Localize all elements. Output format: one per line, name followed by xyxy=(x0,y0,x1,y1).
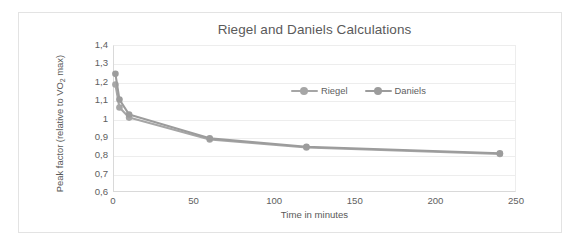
y-axis-title: Peak factor (relative to VO2 max) xyxy=(54,44,65,204)
legend-entry[interactable]: Riegel xyxy=(291,85,348,96)
legend-marker-icon xyxy=(365,86,392,96)
x-axis-tick-label: 50 xyxy=(174,195,214,206)
y-axis-tick-label: 0,7 xyxy=(80,168,108,179)
y-axis-tick-label: 1,1 xyxy=(80,94,108,105)
x-axis-tick-label: 200 xyxy=(415,195,455,206)
y-axis-title-subscript: 2 xyxy=(59,78,66,82)
legend-label: Riegel xyxy=(321,85,348,96)
y-axis-tick-label: 1,4 xyxy=(80,39,108,50)
chart-title: Riegel and Daniels Calculations xyxy=(113,22,516,37)
data-point-marker xyxy=(126,111,133,118)
y-axis-tick-label: 1,2 xyxy=(80,76,108,87)
y-axis-title-prefix: Peak factor (relative to VO xyxy=(54,82,65,192)
x-axis-tick-label: 0 xyxy=(93,195,133,206)
y-axis-tick-label: 0,9 xyxy=(80,131,108,142)
chart-screenshot: Riegel and Daniels Calculations Peak fac… xyxy=(0,0,582,249)
data-point-marker xyxy=(206,135,213,142)
y-axis-tick-label: 1,3 xyxy=(80,57,108,68)
data-point-marker xyxy=(116,104,123,111)
data-point-marker xyxy=(497,150,504,157)
y-axis-title-suffix: max) xyxy=(54,55,65,78)
data-point-marker xyxy=(303,143,310,150)
chart-legend: RiegelDaniels xyxy=(291,85,426,96)
data-point-marker xyxy=(116,96,123,103)
x-axis-title: Time in minutes xyxy=(113,209,516,220)
y-axis-tick-label: 0,8 xyxy=(80,149,108,160)
legend-marker-icon xyxy=(291,86,318,96)
series-plot xyxy=(113,45,516,192)
x-axis-tick-label: 250 xyxy=(496,195,536,206)
x-axis-tick-label: 100 xyxy=(254,195,294,206)
x-axis-tick-label: 150 xyxy=(335,195,375,206)
legend-entry[interactable]: Daniels xyxy=(365,85,426,96)
y-axis-tick-label: 1 xyxy=(80,113,108,124)
legend-label: Daniels xyxy=(395,85,426,96)
data-point-marker xyxy=(112,71,119,78)
